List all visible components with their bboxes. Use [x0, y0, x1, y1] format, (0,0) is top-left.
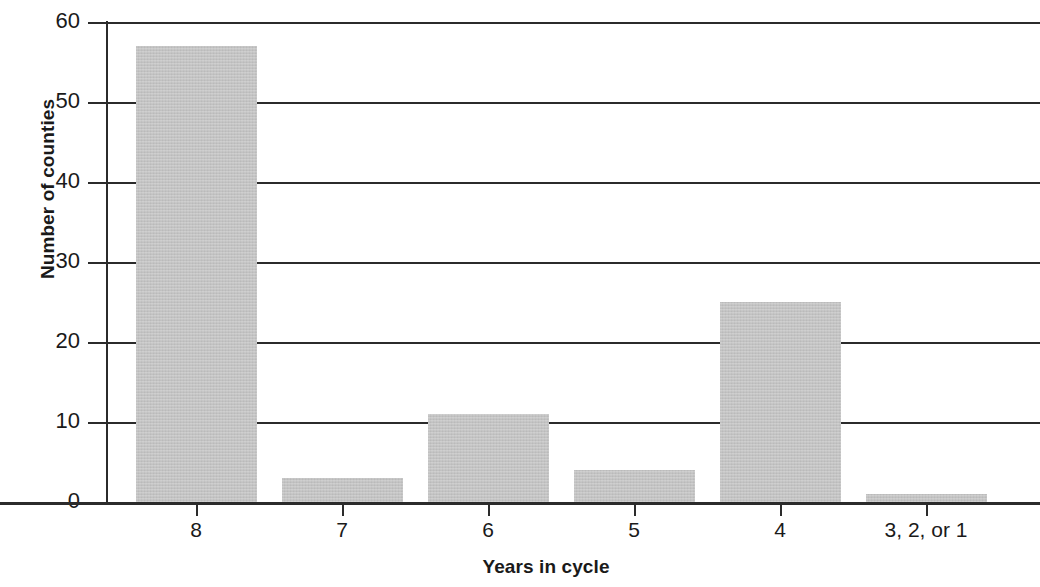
- x-axis-tick-mark: [196, 503, 198, 516]
- plot-area: [106, 22, 1040, 502]
- x-axis-tick-mark: [634, 503, 636, 516]
- y-axis-tick-mark: [88, 182, 106, 184]
- x-axis-tick-label: 8: [190, 518, 202, 542]
- x-axis-title: Years in cycle: [106, 556, 986, 578]
- bar: [136, 46, 257, 502]
- bar: [720, 302, 841, 502]
- bar-chart: Number of counties 60 50 40 30 20 10 0 8…: [0, 0, 1040, 587]
- gridline: [106, 22, 1040, 24]
- x-axis-tick-mark: [488, 503, 490, 516]
- bar: [428, 414, 549, 502]
- x-axis-tick-mark: [926, 503, 928, 516]
- x-axis-tick-label: 6: [482, 518, 494, 542]
- bar: [574, 470, 695, 502]
- y-axis-tick-mark: [88, 342, 106, 344]
- x-axis-tick-mark: [780, 503, 782, 516]
- y-axis-tick-mark: [88, 102, 106, 104]
- y-axis-tick-label: 60: [10, 10, 80, 32]
- y-axis-tick-label: 0: [10, 490, 80, 512]
- y-axis-tick-label: 30: [10, 250, 80, 272]
- x-axis-tick-mark: [342, 503, 344, 516]
- x-axis-tick-label: 4: [774, 518, 786, 542]
- y-axis-line: [106, 21, 108, 504]
- x-axis-line: [0, 502, 1040, 505]
- y-axis-tick-mark: [88, 422, 106, 424]
- y-axis-tick-mark: [88, 22, 106, 24]
- y-axis-tick-label: 50: [10, 90, 80, 112]
- x-axis-tick-label: 5: [628, 518, 640, 542]
- bar: [866, 494, 987, 502]
- y-axis-tick-label: 10: [10, 410, 80, 432]
- y-axis-tick-mark: [88, 262, 106, 264]
- bar: [282, 478, 403, 502]
- x-axis-tick-label: 7: [336, 518, 348, 542]
- x-axis-tick-label: 3, 2, or 1: [885, 518, 968, 542]
- y-axis-tick-label: 20: [10, 330, 80, 352]
- y-axis-tick-label: 40: [10, 170, 80, 192]
